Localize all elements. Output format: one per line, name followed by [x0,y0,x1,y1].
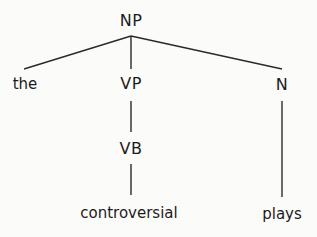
syntax-tree-diagram: NP the VP N VB controversial plays [0,0,317,237]
edge-np-n [131,36,282,69]
node-plays: plays [262,207,302,222]
node-np: NP [120,13,143,29]
node-vp: VP [120,76,142,92]
tree-edges [0,0,317,237]
node-vb: VB [120,141,143,157]
node-n: N [276,77,288,93]
edge-np-the [24,36,131,69]
node-the: the [13,77,38,92]
node-controversial: controversial [80,206,177,221]
